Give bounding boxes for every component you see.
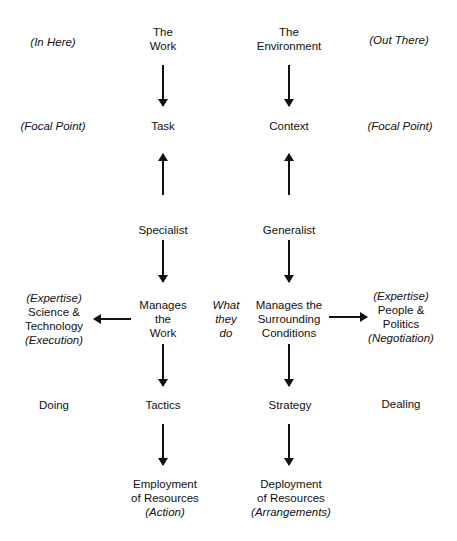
the-environment-node: The Environment [257, 25, 322, 53]
generalist-node: Generalist [263, 223, 315, 237]
execution-label: (Execution) [25, 333, 83, 347]
left-focal-point-label: (Focal Point) [20, 119, 85, 133]
employment-line-2: of Resources [131, 491, 199, 505]
expertise-label-right: (Expertise) [368, 289, 434, 303]
out-there-label: (Out There) [369, 33, 428, 47]
the-work-line-1: The [150, 25, 177, 39]
employment-line-1: Employment [131, 477, 199, 491]
doing-label: Doing [39, 398, 69, 412]
manages-conditions-line-3: Conditions [256, 326, 323, 340]
the-environment-line-1: The [257, 25, 322, 39]
manages-work-line-1: Manages [139, 298, 186, 312]
manages-work-line-2: the [139, 312, 186, 326]
employment-node: Employment of Resources (Action) [131, 477, 199, 519]
negotiation-label: (Negotiation) [368, 331, 434, 345]
science-label: Science & [25, 305, 83, 319]
expertise-label: (Expertise) [25, 291, 83, 305]
specialist-node: Specialist [138, 223, 187, 237]
what-line: What [213, 298, 240, 312]
arrows-layer [0, 0, 457, 541]
context-node: Context [269, 119, 309, 133]
arrangements-label: (Arrangements) [251, 505, 331, 519]
deployment-line-1: Deployment [251, 477, 331, 491]
dealing-label: Dealing [382, 397, 421, 411]
action-label: (Action) [131, 505, 199, 519]
deployment-node: Deployment of Resources (Arrangements) [251, 477, 331, 519]
tactics-node: Tactics [145, 398, 180, 412]
the-work-line-2: Work [150, 39, 177, 53]
manages-work-node: Manages the Work [139, 298, 186, 340]
the-environment-line-2: Environment [257, 39, 322, 53]
in-here-label: (In Here) [30, 35, 75, 49]
deployment-line-2: of Resources [251, 491, 331, 505]
manages-conditions-line-1: Manages the [256, 298, 323, 312]
strategy-node: Strategy [269, 398, 312, 412]
technology-label: Technology [25, 319, 83, 333]
they-line: they [213, 312, 240, 326]
people-label: People & [368, 303, 434, 317]
what-they-do-label: What they do [213, 298, 240, 340]
people-politics-block: (Expertise) People & Politics (Negotiati… [368, 289, 434, 345]
do-line: do [213, 326, 240, 340]
task-node: Task [151, 119, 175, 133]
manages-conditions-line-2: Surrounding [256, 312, 323, 326]
science-technology-block: (Expertise) Science & Technology (Execut… [25, 291, 83, 347]
manages-work-line-3: Work [139, 326, 186, 340]
right-focal-point-label: (Focal Point) [367, 119, 432, 133]
manages-conditions-node: Manages the Surrounding Conditions [256, 298, 323, 340]
politics-label: Politics [368, 317, 434, 331]
the-work-node: The Work [150, 25, 177, 53]
